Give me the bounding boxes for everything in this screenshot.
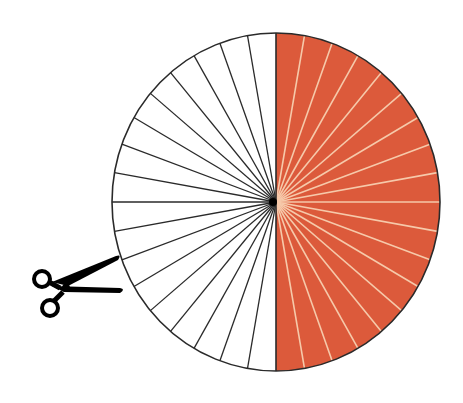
center-hub xyxy=(269,198,277,206)
scissors-icon xyxy=(34,256,123,317)
fraction-circle-diagram xyxy=(0,0,463,403)
